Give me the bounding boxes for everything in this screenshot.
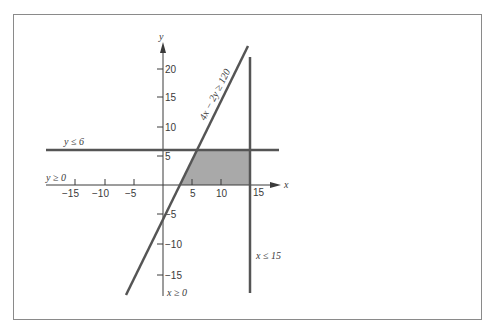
y-axis-arrow-icon [160, 42, 166, 53]
label-x-le-15: x ≤ 15 [255, 250, 281, 261]
y-tick-label: −15 [165, 270, 182, 281]
x-tick-label: 5 [190, 188, 196, 199]
chart: x y −15 −10 −5 5 10 15 20 15 10 5 −5 −10… [0, 0, 494, 331]
y-axis-label: y [158, 31, 164, 42]
x-axis-label: x [283, 179, 289, 190]
y-tick-label: 10 [165, 122, 177, 133]
x-tick-label: 15 [253, 187, 265, 198]
x-tick-label: 10 [216, 188, 228, 199]
y-tick-label: 15 [165, 92, 177, 103]
feasible-region [180, 150, 250, 185]
label-y-le-6: y ≤ 6 [63, 136, 84, 147]
x-axis-arrow-icon [270, 182, 281, 188]
y-tick-label: 5 [165, 151, 171, 162]
label-x-ge-0: x ≥ 0 [166, 287, 187, 298]
y-ticks [157, 69, 163, 275]
x-tick-label: −10 [92, 188, 109, 199]
x-tick-label: −15 [62, 188, 79, 199]
label-y-ge-0: y ≥ 0 [45, 172, 66, 183]
x-tick-label: −5 [125, 188, 137, 199]
y-tick-label: −10 [165, 239, 182, 250]
y-tick-label: 20 [165, 64, 177, 75]
